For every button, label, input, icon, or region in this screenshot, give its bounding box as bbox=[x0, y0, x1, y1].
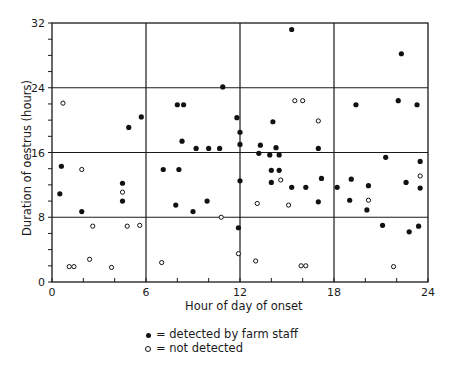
legend: = detected by farm staff = not detected bbox=[143, 327, 298, 355]
legend-label-not-detected: = not detected bbox=[156, 341, 243, 355]
legend-item-not-detected: = not detected bbox=[143, 341, 298, 355]
svg-text:24: 24 bbox=[421, 286, 435, 299]
svg-text:0: 0 bbox=[38, 276, 45, 289]
svg-text:18: 18 bbox=[327, 286, 341, 299]
x-axis-label: Hour of day of onset bbox=[185, 299, 303, 313]
svg-text:6: 6 bbox=[143, 286, 150, 299]
svg-text:8: 8 bbox=[38, 211, 45, 224]
svg-text:0: 0 bbox=[49, 286, 56, 299]
grid-lines bbox=[52, 23, 428, 282]
open-dot-icon bbox=[143, 341, 153, 355]
filled-dot-icon bbox=[143, 327, 153, 341]
scatter-chart: 0612182408162432 Hour of day of onset Du… bbox=[0, 0, 449, 320]
svg-text:12: 12 bbox=[233, 286, 247, 299]
y-axis-label: Duration of oestrus (hours) bbox=[20, 80, 34, 236]
legend-label-detected: = detected by farm staff bbox=[156, 327, 298, 341]
tick-labels: 0612182408162432 bbox=[31, 17, 435, 299]
legend-item-detected: = detected by farm staff bbox=[143, 327, 298, 341]
svg-text:32: 32 bbox=[31, 17, 45, 30]
